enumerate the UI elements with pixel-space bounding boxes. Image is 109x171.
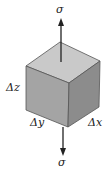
- sigma-bottom-label: σ: [58, 157, 66, 168]
- delta-y-label: Δy: [30, 117, 44, 128]
- sigma-top-label: σ: [56, 4, 64, 15]
- bottom-arrow-head-icon: [60, 148, 66, 156]
- delta-x-label: Δx: [88, 117, 102, 128]
- top-arrow-head-icon: [58, 18, 64, 26]
- delta-z-label: Δz: [6, 82, 20, 93]
- stress-cube-diagram: σ σ Δz Δy Δx: [0, 0, 109, 171]
